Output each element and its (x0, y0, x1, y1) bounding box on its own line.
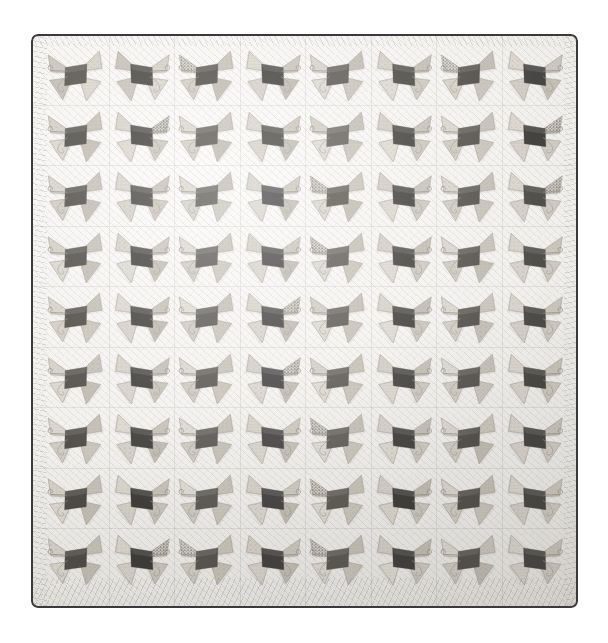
butterfly-block (371, 407, 437, 468)
butterfly-block (174, 105, 240, 166)
butterfly-block (371, 286, 437, 347)
butterfly-block (43, 286, 109, 347)
butterfly-block (109, 528, 175, 589)
butterfly-block (436, 528, 502, 589)
butterfly-block (502, 226, 568, 287)
butterfly-block (43, 347, 109, 408)
butterfly-block (174, 347, 240, 408)
butterfly-block (436, 347, 502, 408)
butterfly-block (240, 407, 306, 468)
butterfly-block (174, 226, 240, 287)
butterfly-block (240, 468, 306, 529)
butterfly-block (371, 226, 437, 287)
butterfly-block (43, 44, 109, 105)
butterfly-block (305, 286, 371, 347)
butterfly-block (174, 44, 240, 105)
butterfly-block (174, 468, 240, 529)
butterfly-block (502, 528, 568, 589)
butterfly-block (174, 286, 240, 347)
butterfly-block (240, 286, 306, 347)
butterfly-block (240, 226, 306, 287)
butterfly-block (436, 468, 502, 529)
butterfly-block (436, 105, 502, 166)
butterfly-block (502, 468, 568, 529)
butterfly-block (436, 286, 502, 347)
butterfly-block (240, 105, 306, 166)
butterfly-block (305, 528, 371, 589)
butterfly-block (109, 226, 175, 287)
butterfly-block (109, 407, 175, 468)
butterfly-block (436, 44, 502, 105)
butterfly-block (240, 528, 306, 589)
butterfly-block (305, 44, 371, 105)
butterfly-block (109, 165, 175, 226)
butterfly-block (305, 165, 371, 226)
butterfly-block (109, 44, 175, 105)
butterfly-block (436, 407, 502, 468)
butterfly-block (371, 528, 437, 589)
butterfly-block (109, 105, 175, 166)
butterfly-block (305, 347, 371, 408)
butterfly-block (371, 44, 437, 105)
butterfly-block (43, 105, 109, 166)
butterfly-block (305, 105, 371, 166)
butterfly-block (174, 528, 240, 589)
butterfly-block (502, 286, 568, 347)
butterfly-block (109, 347, 175, 408)
butterfly-block (43, 226, 109, 287)
butterfly-block (502, 407, 568, 468)
quilt-field (31, 34, 578, 608)
butterfly-block (240, 165, 306, 226)
butterfly-block (240, 347, 306, 408)
butterfly-block (502, 44, 568, 105)
butterfly-quilt (31, 34, 578, 608)
butterfly-block (371, 105, 437, 166)
butterfly-block (502, 105, 568, 166)
butterfly-block (174, 407, 240, 468)
butterfly-block (305, 407, 371, 468)
butterfly-block-grid (31, 34, 578, 608)
butterfly-block (305, 226, 371, 287)
butterfly-block (436, 226, 502, 287)
butterfly-block (371, 165, 437, 226)
butterfly-block (109, 468, 175, 529)
butterfly-block (174, 165, 240, 226)
butterfly-block (502, 347, 568, 408)
butterfly-block (305, 468, 371, 529)
butterfly-block (43, 407, 109, 468)
photo-canvas (0, 0, 608, 643)
butterfly-block (43, 165, 109, 226)
butterfly-block (43, 468, 109, 529)
butterfly-block (240, 44, 306, 105)
butterfly-block (502, 165, 568, 226)
butterfly-block (371, 347, 437, 408)
butterfly-block (371, 468, 437, 529)
butterfly-block (43, 528, 109, 589)
butterfly-block (109, 286, 175, 347)
butterfly-block (436, 165, 502, 226)
